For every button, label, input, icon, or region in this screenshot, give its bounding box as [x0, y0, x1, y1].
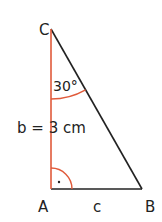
- vertex-label-b: B: [145, 198, 155, 216]
- side-a: [51, 29, 142, 189]
- right-angle-arc: [51, 168, 72, 189]
- triangle-diagram: C A B c b = 3 cm 30°: [0, 0, 162, 222]
- side-label-b: b = 3 cm: [17, 119, 86, 137]
- side-label-c: c: [93, 198, 101, 216]
- vertex-label-c: C: [39, 21, 49, 39]
- vertex-label-a: A: [38, 198, 49, 216]
- right-angle-dot: [58, 181, 60, 183]
- angle-label-c: 30°: [53, 78, 78, 94]
